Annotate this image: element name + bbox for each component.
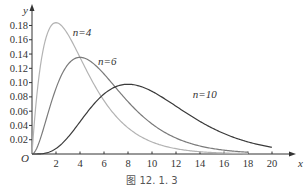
y-tick-label: 0.08 bbox=[10, 91, 28, 102]
y-tick-label: 0.12 bbox=[10, 63, 28, 74]
series-label: n=10 bbox=[193, 88, 217, 100]
figure-caption: 图 12. 1. 3 bbox=[126, 175, 177, 186]
curves bbox=[32, 23, 272, 154]
x-tick-label: 10 bbox=[147, 158, 158, 169]
x-axis-arrow-icon bbox=[289, 152, 296, 157]
x-tick-label: 8 bbox=[125, 158, 130, 169]
curve-n-10 bbox=[32, 84, 272, 154]
y-axis-arrow-icon bbox=[30, 4, 35, 11]
origin-label: O bbox=[21, 152, 29, 164]
x-tick-label: 4 bbox=[77, 158, 83, 169]
x-tick-label: 6 bbox=[101, 158, 106, 169]
x-tick-label: 16 bbox=[219, 158, 230, 169]
x-axis-label: x bbox=[297, 157, 303, 169]
x-tick-label: 12 bbox=[171, 158, 182, 169]
labels: xyOn=4n=6n=10图 12. 1. 3 bbox=[21, 4, 303, 186]
y-tick-label: 0.04 bbox=[10, 120, 29, 131]
y-axis-label: y bbox=[22, 4, 28, 16]
y-tick-label: 0.06 bbox=[10, 106, 28, 117]
y-tick-label: 0.10 bbox=[10, 77, 28, 88]
y-tick-label: 0.02 bbox=[10, 134, 28, 145]
x-tick-label: 20 bbox=[267, 158, 278, 169]
series-label: n=4 bbox=[73, 26, 92, 38]
y-tick-label: 0.18 bbox=[10, 20, 28, 31]
x-tick-label: 2 bbox=[53, 158, 58, 169]
x-tick-label: 18 bbox=[243, 158, 254, 169]
series-label: n=6 bbox=[98, 55, 117, 67]
x-tick-label: 14 bbox=[195, 158, 206, 169]
axes: 24681012141618200.020.040.060.080.100.12… bbox=[10, 4, 296, 169]
chart: 24681012141618200.020.040.060.080.100.12… bbox=[0, 0, 304, 189]
y-tick-label: 0.16 bbox=[10, 34, 28, 45]
curve-n-6 bbox=[32, 57, 248, 154]
y-tick-label: 0.14 bbox=[10, 49, 29, 60]
